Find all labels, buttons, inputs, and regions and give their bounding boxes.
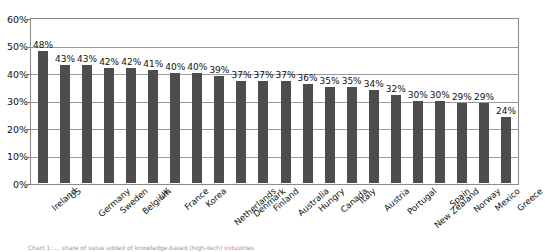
bar-value-label: 41% <box>143 60 163 69</box>
x-axis-labels: IrelandUSGermanySwedenBelgiumUKFranceKor… <box>31 186 518 238</box>
bar-value-label: 29% <box>474 93 494 102</box>
bar: 35% <box>325 87 335 183</box>
bar-value-label: 35% <box>320 77 340 86</box>
bar: 24% <box>501 117 511 183</box>
bar-slot: 40% <box>186 20 208 183</box>
bar-slot: 39% <box>208 20 230 183</box>
bar-slot: 43% <box>54 20 76 183</box>
bar-value-label: 42% <box>121 58 141 67</box>
figure-caption: Chart 1: ... share of value added of kno… <box>28 244 498 252</box>
x-axis-tick-label: Portugal <box>406 186 439 217</box>
bar-slot: 29% <box>451 20 473 183</box>
bar-value-label: 48% <box>33 41 53 50</box>
bar-value-label: 29% <box>452 93 472 102</box>
bar-series: 48%43%43%42%42%41%40%40%39%37%37%37%36%3… <box>32 20 517 183</box>
bar-value-label: 39% <box>209 66 229 75</box>
bar: 42% <box>104 68 114 184</box>
bar-value-label: 36% <box>298 74 318 83</box>
y-axis-tick-label: 10% <box>0 152 28 161</box>
bar-slot: 32% <box>385 20 407 183</box>
bar: 37% <box>281 81 291 183</box>
bar-value-label: 37% <box>231 71 251 80</box>
bar: 48% <box>38 51 48 183</box>
plot-area: 48%43%43%42%42%41%40%40%39%37%37%37%36%3… <box>30 18 519 185</box>
y-axis-tick-label: 40% <box>0 70 28 79</box>
bar-slot: 37% <box>275 20 297 183</box>
bar: 30% <box>435 101 445 184</box>
bar-value-label: 30% <box>408 91 428 100</box>
bar-slot: 34% <box>363 20 385 183</box>
bar-slot: 35% <box>319 20 341 183</box>
bar-value-label: 24% <box>496 107 516 116</box>
y-axis-tick-label: 60% <box>0 15 28 24</box>
bar-slot: 35% <box>341 20 363 183</box>
bar: 29% <box>457 103 467 183</box>
bar: 43% <box>60 65 70 183</box>
bar-slot: 40% <box>164 20 186 183</box>
y-axis-tick-label: 0% <box>0 180 28 189</box>
bar-slot: 41% <box>142 20 164 183</box>
y-axis-tick-label: 30% <box>0 97 28 106</box>
bar: 37% <box>236 81 246 183</box>
bar: 39% <box>214 76 224 183</box>
bar-value-label: 30% <box>430 91 450 100</box>
y-axis-tick-label: 20% <box>0 125 28 134</box>
bar-slot: 37% <box>230 20 252 183</box>
bar: 34% <box>369 90 379 184</box>
bar: 30% <box>413 101 423 184</box>
bar-slot: 29% <box>473 20 495 183</box>
bar: 42% <box>126 68 136 184</box>
bar-slot: 30% <box>429 20 451 183</box>
bar-slot: 42% <box>98 20 120 183</box>
bar: 29% <box>479 103 489 183</box>
bar-value-label: 37% <box>276 71 296 80</box>
bar: 37% <box>258 81 268 183</box>
bar: 32% <box>391 95 401 183</box>
bar: 36% <box>303 84 313 183</box>
bar-value-label: 34% <box>364 80 384 89</box>
bar-value-label: 40% <box>187 63 207 72</box>
plot-wrapper: 48%43%43%42%42%41%40%40%39%37%37%37%36%3… <box>30 18 519 185</box>
bar-slot: 24% <box>495 20 517 183</box>
bar: 43% <box>82 65 92 183</box>
bar-slot: 37% <box>252 20 274 183</box>
bar-value-label: 37% <box>253 71 273 80</box>
bar: 35% <box>347 87 357 183</box>
bar-slot: 43% <box>76 20 98 183</box>
bar-value-label: 35% <box>342 77 362 86</box>
bar-slot: 30% <box>407 20 429 183</box>
bar-value-label: 42% <box>99 58 119 67</box>
bar-value-label: 43% <box>55 55 75 64</box>
bar-slot: 42% <box>120 20 142 183</box>
y-axis-tick-label: 50% <box>0 42 28 51</box>
bar-slot: 36% <box>297 20 319 183</box>
bar-value-label: 40% <box>165 63 185 72</box>
bar-value-label: 43% <box>77 55 97 64</box>
bar-slot: 48% <box>32 20 54 183</box>
bar-value-label: 32% <box>386 85 406 94</box>
bar: 40% <box>192 73 202 183</box>
bar: 40% <box>170 73 180 183</box>
bar: 41% <box>148 70 158 183</box>
